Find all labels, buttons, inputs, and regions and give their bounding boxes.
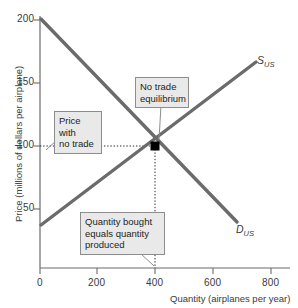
x-tick-label-400: 400 [146,277,163,288]
annotation-price-with-no-trade: Price with no trade [54,111,102,154]
quantity-leader-line [140,253,154,266]
demand-curve-label-sub: US [244,229,254,238]
x-tick-label-600: 600 [204,277,221,288]
x-tick-label-200: 200 [88,277,105,288]
supply-curve-label-sub: US [264,60,274,69]
demand-curve-label: DUS [236,223,254,238]
demand-curve-label-main: D [236,223,244,235]
supply-demand-chart: 200 150 100 50 0 200 400 600 800 Price (… [0,0,298,308]
y-tick-label-50: 50 [23,202,35,213]
x-axis-title: Quantity (airplanes per year) [170,293,290,304]
equilibrium-point-marker [151,142,160,151]
chart-plot-area [0,0,298,308]
y-axis-title: Price (millions of dollars per airplane) [13,66,24,222]
supply-curve-label-main: S [257,54,264,66]
annotation-quantity-bought-equals-produced: Quantity bought equals quantity produced [80,212,165,255]
supply-curve-label: SUS [257,54,274,69]
y-tick-label-200: 200 [17,13,34,24]
x-tick-label-800: 800 [262,277,279,288]
annotation-no-trade-equilibrium: No trade equilibrium [135,77,189,108]
x-tick-label-0: 0 [37,277,43,288]
